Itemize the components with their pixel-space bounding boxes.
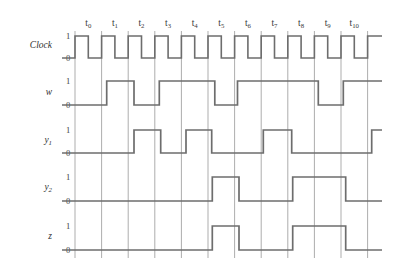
- level-high-w: 1: [66, 76, 70, 86]
- time-axis-labels: t0t1t2t3t4t5t6t7t8t9t10: [85, 18, 359, 29]
- time-label-0: t0: [85, 18, 92, 29]
- signal-label-z: z: [47, 231, 52, 241]
- time-label-2: t2: [138, 18, 145, 29]
- level-high-y1: 1: [66, 125, 70, 135]
- timing-diagram-svg: t0t1t2t3t4t5t6t7t8t9t10 Clockwy1y2z 1010…: [0, 0, 405, 276]
- level-labels: 1010101010: [66, 31, 70, 255]
- waveform-w: [62, 81, 382, 105]
- waveform-y2: [62, 177, 382, 201]
- level-high-z: 1: [66, 221, 70, 231]
- level-high-y2: 1: [66, 172, 70, 182]
- time-label-1: t1: [112, 18, 118, 29]
- level-high-Clock: 1: [66, 31, 70, 41]
- time-label-5: t5: [218, 18, 225, 29]
- time-label-4: t4: [192, 18, 199, 29]
- signal-name-labels: Clockwy1y2z: [30, 40, 53, 241]
- waveform-y1: [62, 130, 382, 153]
- signal-label-y2: y2: [43, 182, 52, 193]
- time-label-7: t7: [271, 18, 278, 29]
- waveforms: [62, 36, 382, 250]
- time-label-8: t8: [298, 18, 305, 29]
- gridlines: [75, 31, 368, 258]
- time-label-6: t6: [245, 18, 252, 29]
- waveform-Clock: [62, 36, 382, 58]
- signal-label-y1: y1: [43, 135, 52, 146]
- time-label-3: t3: [165, 18, 172, 29]
- signal-label-w: w: [46, 87, 53, 97]
- time-label-10: t10: [350, 18, 360, 29]
- signal-label-Clock: Clock: [30, 40, 53, 50]
- timing-diagram-figure: t0t1t2t3t4t5t6t7t8t9t10 Clockwy1y2z 1010…: [0, 0, 405, 276]
- time-label-9: t9: [325, 18, 332, 29]
- waveform-z: [62, 226, 382, 250]
